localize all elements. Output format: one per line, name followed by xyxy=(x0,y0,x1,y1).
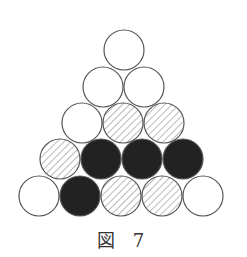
circle-filled xyxy=(163,139,203,179)
circle-hatched xyxy=(40,139,80,179)
circle-filled xyxy=(81,139,121,179)
circle-empty xyxy=(124,67,164,107)
circle-hatched xyxy=(101,176,141,216)
circle-hatched xyxy=(144,103,184,143)
circle-empty xyxy=(19,176,59,216)
circle-empty xyxy=(104,30,144,70)
circle-hatched xyxy=(142,176,182,216)
circle-empty xyxy=(183,176,223,216)
figure-caption: 図 7 xyxy=(0,226,247,252)
circle-filled xyxy=(122,139,162,179)
circle-empty xyxy=(83,67,123,107)
circle-triangle-diagram xyxy=(0,0,247,257)
circle-group xyxy=(19,30,223,216)
circle-empty xyxy=(62,103,102,143)
circle-hatched xyxy=(103,103,143,143)
circle-filled xyxy=(60,176,100,216)
